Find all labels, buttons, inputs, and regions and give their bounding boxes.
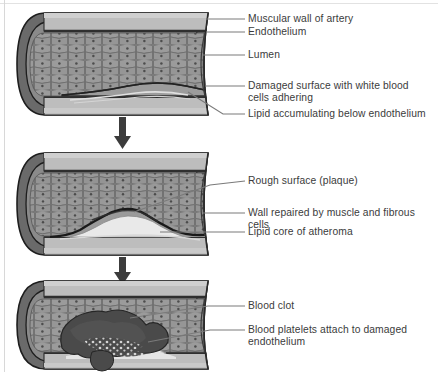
artery-progression-illustration: [0, 0, 438, 372]
label-blood-clot: Blood clot: [248, 300, 294, 312]
stage-2-artery: [17, 153, 245, 255]
label-muscular-wall-of-artery: Muscular wall of artery: [248, 13, 353, 25]
label-rough-surface-plaque: Rough surface (plaque): [248, 175, 358, 187]
label-endothelium: Endothelium: [248, 26, 306, 38]
progression-arrow-1: [114, 117, 131, 149]
atheroma-diagram-page: Muscular wall of artery Endothelium Lume…: [0, 0, 438, 372]
stage-3-artery: [17, 281, 245, 371]
label-blood-platelets-attach-to-damaged-endothelium: Blood platelets attach to damaged endoth…: [248, 324, 407, 349]
label-lipid-core-of-atheroma: Lipid core of atheroma: [248, 226, 353, 238]
label-damaged-surface-white-blood-cells: Damaged surface with white blood cells a…: [248, 80, 409, 105]
label-lipid-accumulating-below-endothelium: Lipid accumulating below endothelium: [248, 108, 426, 120]
label-lumen: Lumen: [248, 49, 280, 61]
stage-1-artery: [17, 13, 245, 115]
